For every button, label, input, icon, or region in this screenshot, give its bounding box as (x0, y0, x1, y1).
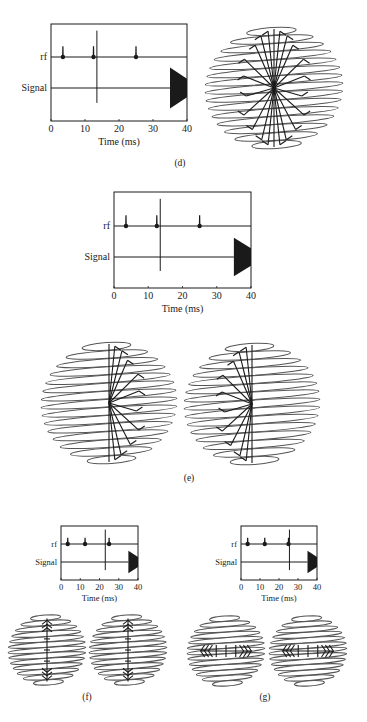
x-tick-label: 40 (182, 123, 192, 134)
vector-head (302, 92, 308, 96)
x-tick-label: 20 (114, 123, 124, 134)
rf-axis-label: rf (40, 51, 47, 62)
signal-axis-label: Signal (215, 557, 237, 567)
sphere-ring (214, 48, 331, 64)
magnetization-sphere (184, 342, 320, 466)
sphere-ring (191, 630, 260, 640)
sphere-ring (60, 436, 162, 451)
x-tick-label: 0 (59, 582, 63, 592)
sphere-ring (192, 662, 261, 672)
x-tick-label: 20 (275, 582, 284, 592)
magnetization-sphere (8, 614, 86, 686)
x-tick-label: 40 (246, 290, 256, 301)
sphere-ring (270, 635, 344, 645)
sphere-ring (252, 139, 302, 150)
x-axis-label: Time (ms) (98, 136, 140, 148)
vector-head (240, 347, 246, 351)
sphere-ring (274, 662, 343, 672)
sphere-ring (221, 40, 324, 55)
x-tick-label: 30 (212, 290, 222, 301)
vector-head (216, 392, 222, 396)
rf-pulse-base (124, 224, 128, 228)
magnetization-sphere (89, 614, 167, 686)
x-tick-label: 30 (294, 582, 303, 592)
magnetization-sphere (41, 341, 177, 465)
magnetization-sphere (269, 615, 347, 687)
spin-vectors (238, 29, 311, 147)
sphere-ring (273, 630, 342, 640)
sphere-ring (212, 104, 339, 120)
x-tick-label: 10 (256, 582, 265, 592)
echo-signal (170, 68, 187, 109)
vector-head (136, 407, 142, 411)
plot-frame (51, 24, 187, 121)
pulse-sequence-chart: rfSignal010203040Time (ms) (215, 526, 321, 603)
x-tick-label: 40 (313, 582, 322, 592)
rf-pulse-base (155, 224, 159, 228)
vector-head (280, 141, 286, 145)
panel-label: (f) (82, 692, 92, 703)
sphere-ring (12, 629, 81, 639)
rf-pulse-base (91, 55, 95, 59)
vector-head (304, 76, 310, 80)
x-axis-label: Time (ms) (162, 303, 204, 315)
sphere-ring (196, 428, 311, 444)
sphere-ring (217, 112, 334, 128)
rf-pulse-base (83, 542, 87, 546)
vector-head (287, 36, 293, 40)
rf-pulse-base (134, 55, 138, 59)
panels-layer: rfSignal010203040Time (ms)(d)rfSignal010… (8, 24, 347, 703)
vector-head (130, 440, 136, 444)
plot-frame (241, 526, 317, 580)
sphere-ring (53, 427, 168, 443)
sphere-ring (191, 420, 316, 436)
x-tick-label: 10 (80, 123, 90, 134)
vector-head (122, 351, 128, 355)
sphere-ring (93, 629, 162, 639)
sphere-ring (210, 56, 337, 72)
panel-e: rfSignal010203040Time (ms)(e) (41, 192, 320, 484)
sphere-ring (203, 437, 305, 452)
vector-head (262, 31, 268, 35)
x-tick-label: 0 (112, 290, 117, 301)
sphere-ring (188, 635, 262, 645)
sphere-ring (187, 412, 318, 429)
sphere-ring (56, 355, 158, 370)
plot-frame (114, 192, 251, 288)
rf-pulse-base (197, 224, 201, 228)
magnetization-sphere (205, 26, 343, 150)
rf-pulse-base (245, 542, 249, 546)
magnetization-sphere (187, 615, 265, 687)
x-tick-label: 10 (143, 290, 153, 301)
sphere-ring (189, 657, 263, 667)
rf-pulse-base (107, 542, 111, 546)
sphere-ring (224, 121, 327, 136)
rf-axis-label: rf (51, 539, 57, 549)
vector-head (296, 125, 302, 129)
panel-f: rfSignal010203040Time (ms)(f) (8, 526, 167, 703)
x-tick-label: 20 (95, 582, 104, 592)
panel-label: (e) (184, 473, 195, 484)
spin-vectors (42, 619, 52, 682)
spin-vectors (123, 619, 133, 682)
x-tick-label: 40 (134, 582, 143, 592)
x-axis-label: Time (ms) (261, 593, 297, 603)
x-tick-label: 10 (76, 582, 85, 592)
panel-label: (d) (174, 158, 185, 169)
sphere-ring (193, 364, 308, 380)
pulse-sequence-chart: rfSignal010203040Time (ms) (84, 192, 256, 315)
pulse-sequence-chart: rfSignal010203040Time (ms) (35, 526, 142, 603)
panel-d: rfSignal010203040Time (ms)(d) (21, 24, 343, 169)
x-tick-label: 0 (239, 582, 243, 592)
vector-head (128, 360, 134, 364)
rf-pulse-base (61, 55, 65, 59)
echo-signal (128, 551, 138, 573)
panel-label: (g) (259, 692, 270, 703)
vector-head (139, 391, 145, 395)
echo-signal (308, 551, 318, 573)
pulse-sequence-chart: rfSignal010203040Time (ms) (21, 24, 192, 148)
x-tick-label: 30 (115, 582, 124, 592)
sphere-ring (188, 372, 313, 388)
x-tick-label: 0 (49, 123, 54, 134)
vector-head (234, 452, 240, 456)
